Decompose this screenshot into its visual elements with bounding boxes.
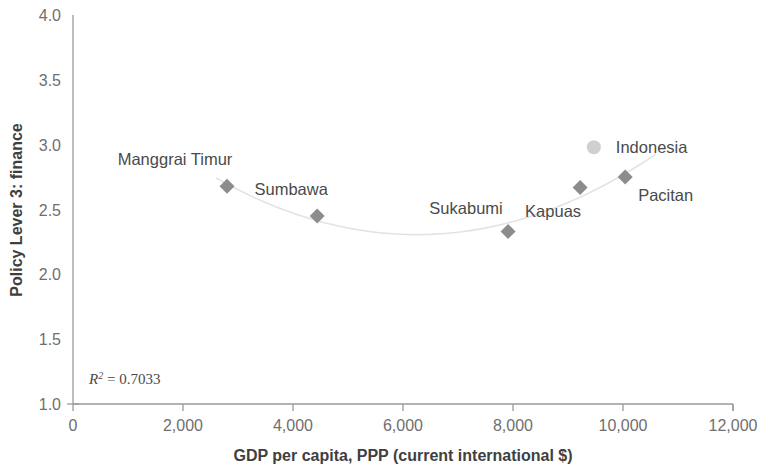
chart-canvas: 1.01.52.02.53.03.54.002,0004,0006,0008,0…	[0, 0, 762, 468]
axes: 1.01.52.02.53.03.54.002,0004,0006,0008,0…	[39, 7, 758, 434]
x-tick-label: 6,000	[383, 417, 423, 434]
r-squared-symbol: R	[88, 371, 98, 387]
x-tick-label: 8,000	[493, 417, 533, 434]
y-axis-title: Policy Lever 3: finance	[8, 123, 25, 297]
x-axis-title: GDP per capita, PPP (current internation…	[233, 447, 572, 464]
scatter-chart: 1.01.52.02.53.03.54.002,0004,0006,0008,0…	[0, 0, 762, 468]
point-label-sumbawa: Sumbawa	[255, 180, 329, 198]
data-marker-pacitan	[618, 170, 633, 185]
y-tick-label: 1.0	[39, 396, 61, 413]
r-squared-annotation: R2 = 0.7033	[88, 370, 160, 387]
data-marker-sukabumi	[501, 224, 516, 239]
y-tick-label: 1.5	[39, 331, 61, 348]
x-tick-label: 10,000	[599, 417, 648, 434]
x-tick-label: 12,000	[709, 417, 758, 434]
y-tick-label: 2.5	[39, 202, 61, 219]
data-marker-indonesia	[587, 140, 601, 154]
y-tick-label: 3.5	[39, 72, 61, 89]
y-tick-label: 4.0	[39, 7, 61, 24]
point-label-indonesia: Indonesia	[616, 138, 688, 156]
x-tick-label: 2,000	[163, 417, 203, 434]
x-tick-label: 4,000	[273, 417, 313, 434]
x-tick-label: 0	[69, 417, 78, 434]
r-squared-value: = 0.7033	[103, 371, 160, 387]
point-label-kapuas: Kapuas	[525, 202, 581, 220]
point-label-pacitan: Pacitan	[638, 186, 693, 204]
point-labels: Manggrai TimurSumbawaSukabumiKapuasPacit…	[118, 138, 694, 220]
axis-titles: GDP per capita, PPP (current internation…	[8, 123, 573, 464]
point-label-sukabumi: Sukabumi	[429, 199, 502, 217]
data-marker-sumbawa	[310, 208, 325, 223]
y-tick-label: 3.0	[39, 137, 61, 154]
point-label-manggrai-timur: Manggrai Timur	[118, 150, 233, 168]
y-tick-label: 2.0	[39, 266, 61, 283]
data-marker-kapuas	[573, 180, 588, 195]
r-squared-label: R2 = 0.7033	[88, 370, 160, 387]
